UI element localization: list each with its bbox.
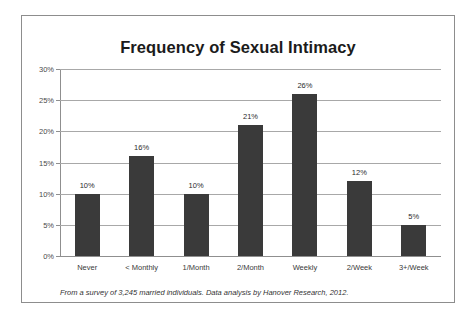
bar[interactable] — [292, 94, 317, 256]
bar-group: 12%2/Week — [332, 69, 386, 256]
plot-area: 0%5%10%15%20%25%30% 10%Never16%< Monthly… — [60, 69, 441, 256]
bar[interactable] — [129, 156, 154, 256]
bar-group: 21%2/Month — [223, 69, 277, 256]
y-axis-tick-mark — [56, 256, 60, 257]
bar-group: 10%1/Month — [169, 69, 223, 256]
chart-title: Frequency of Sexual Intimacy — [22, 38, 454, 57]
gridline — [60, 256, 441, 257]
y-axis-tick-label: 0% — [43, 252, 54, 261]
bar-value-label: 5% — [408, 212, 419, 221]
chart-page-frame: Frequency of Sexual Intimacy 0%5%10%15%2… — [21, 15, 455, 303]
y-axis-tick-label: 25% — [39, 96, 54, 105]
bar[interactable] — [401, 225, 426, 256]
y-axis-tick-label: 5% — [43, 220, 54, 229]
bar-value-label: 10% — [80, 181, 95, 190]
bar-group: 26%Weekly — [278, 69, 332, 256]
bar[interactable] — [347, 181, 372, 256]
x-axis-tick-label: 2/Month — [237, 263, 264, 272]
bar-value-label: 12% — [352, 168, 367, 177]
x-axis-tick-label: Weekly — [293, 263, 317, 272]
y-axis-tick-label: 10% — [39, 189, 54, 198]
bar-group: 10%Never — [60, 69, 114, 256]
y-axis-tick-label: 20% — [39, 127, 54, 136]
bar[interactable] — [238, 125, 263, 256]
y-axis-tick-label: 15% — [39, 158, 54, 167]
x-axis-tick-label: 2/Week — [347, 263, 372, 272]
chart-footnote: From a survey of 3,245 married individua… — [60, 288, 348, 297]
x-axis-tick-label: Never — [77, 263, 97, 272]
y-axis-tick-label: 30% — [39, 65, 54, 74]
x-axis-tick-label: 1/Month — [182, 263, 209, 272]
bar-value-label: 21% — [243, 112, 258, 121]
bar-group: 16%< Monthly — [114, 69, 168, 256]
bar-value-label: 10% — [189, 181, 204, 190]
x-axis-tick-label: < Monthly — [125, 263, 158, 272]
bar-value-label: 26% — [297, 81, 312, 90]
bar-value-label: 16% — [134, 143, 149, 152]
bar[interactable] — [184, 194, 209, 256]
bar[interactable] — [75, 194, 100, 256]
bar-group: 5%3+/Week — [387, 69, 441, 256]
x-axis-tick-label: 3+/Week — [399, 263, 429, 272]
